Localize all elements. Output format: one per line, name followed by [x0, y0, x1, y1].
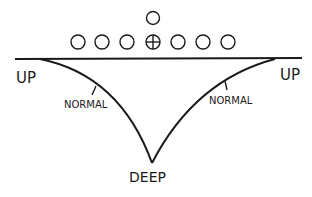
normal-right-tick: [225, 81, 227, 90]
up-right-label: UP: [280, 66, 300, 84]
normal-left-tick: [92, 86, 96, 95]
line-player-1: [71, 35, 85, 49]
line-player-7: [221, 35, 235, 49]
normal-right-label: NORMAL: [209, 95, 253, 106]
line-player-3: [120, 35, 134, 49]
normal-left-label: NORMAL: [64, 99, 108, 110]
line-player-2: [95, 35, 109, 49]
up-left-label: UP: [16, 69, 36, 87]
formation-diagram: UP UP NORMAL NORMAL DEEP: [0, 0, 312, 197]
top-player-circle: [147, 12, 160, 25]
deep-label: DEEP: [129, 169, 166, 185]
line-player-5: [171, 35, 185, 49]
right-depth-curve: [152, 59, 275, 163]
line-of-scrimmage: [15, 58, 302, 59]
left-depth-curve: [40, 59, 152, 163]
center-player-crossed-circle: [146, 35, 160, 49]
line-player-6: [196, 35, 210, 49]
